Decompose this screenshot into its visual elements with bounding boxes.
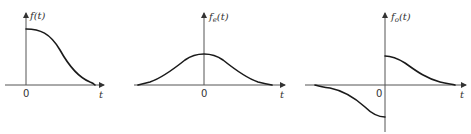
x-axis-label: t: [99, 89, 104, 100]
panel-fe: fe(t) 0 t: [134, 11, 285, 100]
y-axis-label: fe(t): [208, 11, 229, 24]
origin-label: 0: [201, 88, 207, 99]
x-axis-label: t: [460, 89, 465, 100]
even-odd-decomposition-figure: f(t) 0 t fe(t) 0 t fo(t) 0 t: [0, 0, 471, 134]
curve-fo-negative: [315, 85, 385, 117]
curve-fe: [138, 54, 272, 85]
origin-label: 0: [376, 88, 382, 99]
origin-label: 0: [23, 88, 29, 99]
panel-fo: fo(t) 0 t: [305, 11, 466, 132]
curve-f: [26, 29, 95, 85]
panel-f: f(t) 0 t: [5, 10, 104, 100]
x-axis-label: t: [280, 89, 285, 100]
y-axis-label: fo(t): [390, 11, 411, 24]
y-axis-label: f(t): [29, 10, 46, 21]
curve-fo-positive: [385, 56, 455, 85]
